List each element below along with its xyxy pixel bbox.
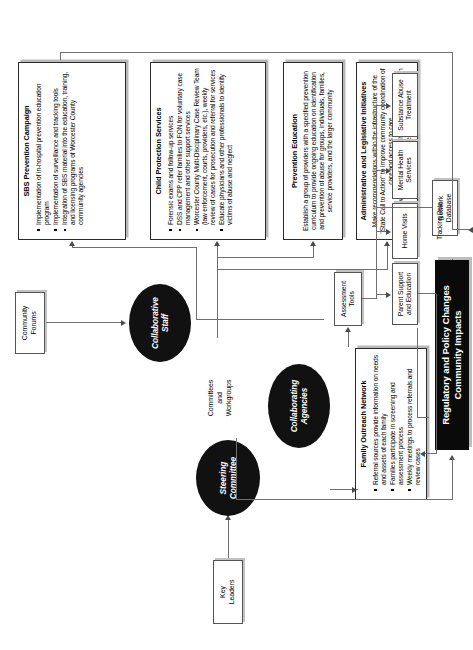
family-outreach-network-list: Referral sources provide information on … [372,354,422,494]
connector-into-outcome-bar-top [236,438,237,500]
list-item: DSS and CPP refer families to FON for vo… [176,68,192,225]
arrowhead-forums-staff [121,320,126,326]
mental-health-services-label: Mental Health Services [397,150,414,191]
oval-collaborating-agencies: Collaborating Agencies [268,364,330,448]
arrowhead-to-home-visits [386,229,391,235]
connector-into-outcome-bar-riser [236,499,452,500]
sbs-prevention-campaign-title: SBS Prevention Campaign [23,68,32,234]
box-sbs-prevention-campaign: SBS Prevention Campaign Implementation o… [18,62,126,240]
list-item: Forensic exams and follow-up services [167,68,175,225]
connector-keyleaders-steering [228,520,229,558]
box-child-protection-services: Child Protection Services Forensic exams… [150,62,266,240]
child-protection-services-list: Forensic exams and follow-up services DS… [167,68,234,234]
arrowhead-to-sbs [69,241,75,246]
connector-outcome-arrow-stem [452,229,470,230]
key-leaders-label: Key Leaders [219,580,237,605]
connector-admin-to-outcome-v [60,52,390,53]
arrowhead-tracking-return [420,451,425,457]
child-protection-services-title: Child Protection Services [155,68,164,234]
home-visits-label: Home Visits [401,213,409,248]
connector-tracking-return-up [424,453,436,454]
list-item: Referral sources provide information on … [372,354,388,485]
family-outreach-network-title: Family Outreach Network [360,354,369,494]
list-item: Educate physicians and other professiona… [218,68,234,225]
arrowhead-to-outcome-bar [468,227,473,233]
tracking-data-label: Tracking Data [436,188,444,254]
outcome-black-bar-label: Regulatory and Policy Changes Community … [440,285,465,425]
oval-steering-committee: Steering Committee [196,440,260,516]
connector-network-database-v [376,207,432,208]
list-item: Integration of SBS material into the edu… [61,68,84,225]
arrowhead-to-cps [214,241,220,246]
arrowhead-to-prevention-education [310,241,316,246]
assessment-tools-label: Assessment Tools [340,281,357,317]
connector-services-to-outcome [452,259,453,260]
prevention-education-title: Prevention Education [291,68,300,234]
connector-left-feed-h [417,328,418,418]
oval-collaborative-staff: Collaborative Staff [129,284,191,362]
arrowhead-to-parent-support [386,292,391,298]
box-home-visits: Home Visits [392,203,418,259]
sbs-prevention-campaign-list: Implementation of in-hospital prevention… [35,68,85,234]
box-substance-abuse-treatment: Substance Abuse Treatment [392,73,418,137]
arrowhead-to-mental-health [386,168,391,174]
list-item: Implementation of surveillance and track… [52,68,60,225]
community-forums-box: Community Forums [15,292,45,354]
prevention-education-body: Establish a group of providers with a sp… [302,68,333,234]
connector-into-outcome-bar-stem [452,458,453,500]
connector-forums-staff [46,322,121,323]
connector-assessment-bus-h [376,105,377,299]
connector-to-admin-v [217,269,387,270]
arrowhead-agencies-to-fon [352,487,357,493]
community-forums-label: Community Forums [21,306,39,341]
outcome-black-bar: Regulatory and Policy Changes Community … [435,260,469,450]
box-assessment-tools: Assessment Tools [334,272,362,326]
administrative-and-legislative-initiatives-title: Administrative and Legislative Initiativ… [360,68,369,234]
connector-to-sbs [196,248,197,320]
box-parent-support-and-education: Parent Support and Education [392,263,418,325]
arrowhead-fon-to-assessment [345,327,351,332]
list-item: Families participate in screening and as… [389,354,405,485]
collaborative-staff-label: Collaborative Staff [150,297,170,349]
list-item: Worcester County Multi-Disciplinary Case… [193,68,216,225]
connector-left-feed-v [417,417,429,418]
connector-tracking-return-h [436,294,437,454]
connector-outcome-feed-v [390,52,452,53]
box-prevention-education: Prevention Education Establish a group o… [283,62,343,240]
connector-outcome-feed-h [452,52,453,230]
list-item: Weekly meetings to process referrals and… [406,354,422,485]
box-mental-health-services: Mental Health Services [392,141,418,199]
connector-bus-vertical [196,319,324,320]
connector-fon-to-assessment [348,331,349,347]
connector-admin-to-outcome-h [60,52,61,60]
list-item: Implementation of in-hospital prevention… [35,68,51,225]
key-leaders-box: Key Leaders [213,560,243,624]
substance-abuse-treatment-label: Substance Abuse Treatment [397,79,414,130]
collaborating-agencies-label: Collaborating Agencies [289,380,309,433]
arrowhead-to-substance-abuse [386,103,391,109]
connector-to-admin-h [387,242,388,270]
connector-assessment-bus-v [362,298,376,299]
parent-support-and-education-label: Parent Support and Education [397,272,414,316]
arrowhead-to-admin [384,241,390,246]
connector-to-sbs-v [72,247,197,248]
connector-to-prevented-v [217,257,313,258]
committees-and-workgroups-label: Committees and Workgroups [207,362,233,434]
connector-tracking-return-v [418,293,436,294]
